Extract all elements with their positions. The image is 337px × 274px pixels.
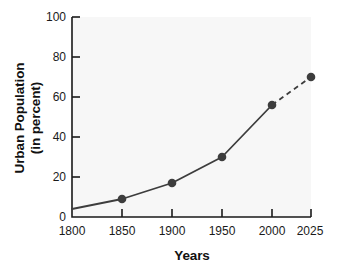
plot-background bbox=[72, 17, 311, 217]
plot-area bbox=[0, 0, 337, 274]
data-point-2000 bbox=[268, 101, 277, 110]
chart-figure: Urban Population (in percent) Years 100 … bbox=[0, 0, 337, 274]
data-point-1950 bbox=[218, 153, 227, 162]
data-point-2025 bbox=[307, 73, 316, 82]
data-point-1900 bbox=[168, 179, 177, 188]
data-point-1850 bbox=[118, 195, 127, 204]
